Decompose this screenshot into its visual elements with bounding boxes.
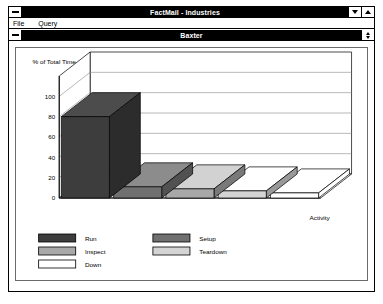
legend-label: Run [85, 235, 97, 242]
restore-button[interactable] [361, 30, 374, 41]
y-axis-title: % of Total Time [32, 58, 76, 65]
menubar: File Query [9, 18, 374, 29]
child-titlebar[interactable]: Baxter [9, 30, 374, 41]
legend-item-inspect: Inspect [39, 247, 106, 256]
legend-swatch [153, 247, 190, 255]
legend-item-setup: Setup [153, 234, 216, 243]
chart-legend: RunSetupInspectTeardownDown [39, 234, 228, 268]
restore-updown-icon [366, 32, 370, 39]
menu-item-file[interactable]: File [13, 18, 30, 29]
minimize-box-icon [12, 34, 19, 36]
app-titlebar[interactable]: FactMail - Industries [9, 7, 374, 18]
minimize-box-icon [12, 11, 19, 13]
legend-swatch [39, 260, 76, 268]
arrow-up-icon [365, 10, 371, 14]
minimize-button[interactable] [348, 7, 361, 18]
bar-chart-3d: % of Total Time 020406080100 Activity Ru… [16, 48, 367, 280]
system-menu-button[interactable] [9, 7, 22, 18]
maximize-button[interactable] [361, 7, 374, 18]
arrow-down-icon [352, 10, 358, 14]
y-tick-label-5: 100 [45, 93, 56, 100]
legend-label: Down [85, 261, 102, 268]
bar-run [61, 93, 140, 198]
chart-panel: % of Total Time 020406080100 Activity Ru… [15, 47, 368, 281]
app-title: FactMail - Industries [22, 7, 348, 18]
chart-plot-area: 020406080100 [45, 52, 352, 201]
legend-swatch [39, 247, 76, 255]
legend-label: Setup [199, 235, 216, 243]
legend-label: Teardown [199, 248, 227, 255]
legend-item-down: Down [39, 260, 102, 268]
legend-swatch [153, 234, 190, 242]
menu-item-query[interactable]: Query [38, 18, 63, 29]
child-title: Baxter [22, 30, 361, 41]
y-tick-label-2: 40 [48, 154, 55, 161]
y-tick-label-1: 20 [48, 174, 55, 181]
application-window: FactMail - Industries File Query Baxter [8, 6, 375, 292]
child-window-body: % of Total Time 020406080100 Activity Ru… [9, 41, 374, 291]
legend-item-run: Run [39, 234, 98, 242]
legend-swatch [39, 234, 76, 242]
y-tick-label-3: 60 [48, 133, 55, 140]
child-window: Baxter % of Total Time 020406080100 Acti… [9, 30, 374, 291]
legend-label: Inspect [85, 248, 106, 256]
y-tick-label-0: 0 [52, 194, 56, 201]
x-axis-title: Activity [310, 214, 331, 222]
child-system-menu-button[interactable] [9, 30, 22, 41]
legend-item-teardown: Teardown [153, 247, 227, 255]
y-tick-label-4: 80 [48, 113, 55, 120]
